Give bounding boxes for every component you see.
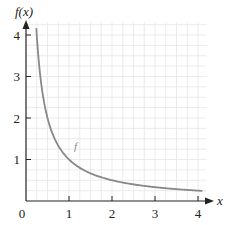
origin-label: 0 bbox=[19, 206, 26, 221]
x-tick-2: 2 bbox=[109, 206, 116, 221]
curve-f bbox=[36, 28, 202, 191]
x-axis-title: x bbox=[216, 193, 223, 208]
y-tick-2: 2 bbox=[14, 111, 21, 126]
y-tick-4: 4 bbox=[14, 28, 21, 43]
curve-label: f bbox=[74, 140, 79, 152]
y-axis-title: f(x) bbox=[15, 4, 33, 19]
chart: 0 1 2 3 4 1 2 3 4 f(x) x f bbox=[0, 0, 226, 225]
x-axis-arrow-icon bbox=[205, 198, 214, 205]
x-tick-4: 4 bbox=[195, 206, 202, 221]
y-tick-1: 1 bbox=[14, 152, 21, 167]
grid bbox=[26, 23, 207, 201]
y-tick-3: 3 bbox=[14, 69, 21, 84]
x-tick-3: 3 bbox=[152, 206, 159, 221]
x-tick-1: 1 bbox=[66, 206, 73, 221]
